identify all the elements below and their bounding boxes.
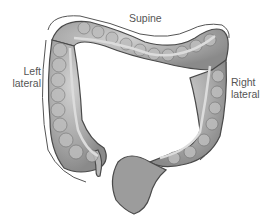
supine-label: Supine xyxy=(129,12,162,24)
right-lateral-line1: Right xyxy=(231,76,260,88)
supine-label-text: Supine xyxy=(129,12,162,24)
left-lateral-label: Left lateral xyxy=(9,65,41,89)
right-lateral-line2: lateral xyxy=(231,88,260,100)
colon-diagram: Supine Left lateral Right lateral xyxy=(0,0,263,222)
left-lateral-line2: lateral xyxy=(9,77,41,89)
right-lateral-label: Right lateral xyxy=(231,76,260,100)
colon-illustration xyxy=(0,0,263,222)
left-lateral-line1: Left xyxy=(9,65,41,77)
